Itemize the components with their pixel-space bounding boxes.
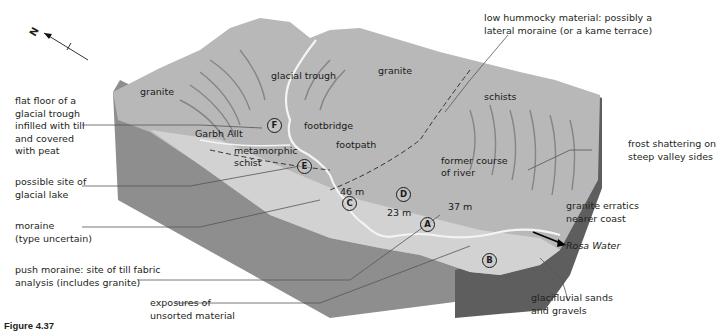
label-schist: schist — [234, 157, 262, 168]
label-elev-46: 46 m — [340, 186, 364, 197]
label-granite-left: granite — [140, 86, 174, 97]
callout-erratics: granite erraticsnearer coast — [566, 200, 639, 225]
callout-glacifluvial: glacifluvial sandsand gravels — [531, 292, 613, 317]
label-of-river: of river — [441, 167, 475, 178]
callout-exposures: exposures ofunsorted material — [150, 297, 235, 322]
label-former-course: former course — [441, 155, 508, 166]
label-schists: schists — [484, 91, 516, 102]
figure-caption: Figure 4.37 — [4, 320, 54, 331]
callout-push-moraine: push moraine: site of till fabricanalysi… — [15, 264, 161, 289]
label-glacial-trough: glacial trough — [271, 70, 336, 81]
callout-rosa-water: Rosa Water — [566, 240, 620, 253]
site-marker-f: F — [267, 118, 282, 133]
label-footbridge: footbridge — [304, 120, 353, 131]
label-metamorphic: metamorphic — [234, 145, 298, 156]
label-elev-37: 37 m — [448, 201, 472, 212]
callout-glacial-lake: possible site ofglacial lake — [15, 176, 86, 201]
label-garbh-allt: Garbh Allt — [195, 128, 243, 139]
site-marker-a: A — [420, 217, 435, 232]
label-granite-right: granite — [378, 65, 412, 76]
site-marker-e: E — [297, 159, 312, 174]
label-footpath: footpath — [336, 139, 376, 150]
site-marker-d: D — [396, 187, 411, 202]
callout-frost: frost shattering onsteep valley sides — [628, 138, 716, 163]
label-elev-23: 23 m — [387, 207, 411, 218]
callout-hummocky: low hummocky material: possibly alateral… — [484, 12, 652, 37]
callout-moraine: moraine(type uncertain) — [15, 220, 92, 245]
north-arrow-line — [44, 33, 88, 60]
north-arrow-head — [44, 33, 52, 39]
callout-flat-floor: flat floor of aglacial troughinfilled wi… — [15, 95, 85, 158]
site-marker-c: C — [342, 196, 357, 211]
site-marker-b: B — [482, 253, 497, 268]
